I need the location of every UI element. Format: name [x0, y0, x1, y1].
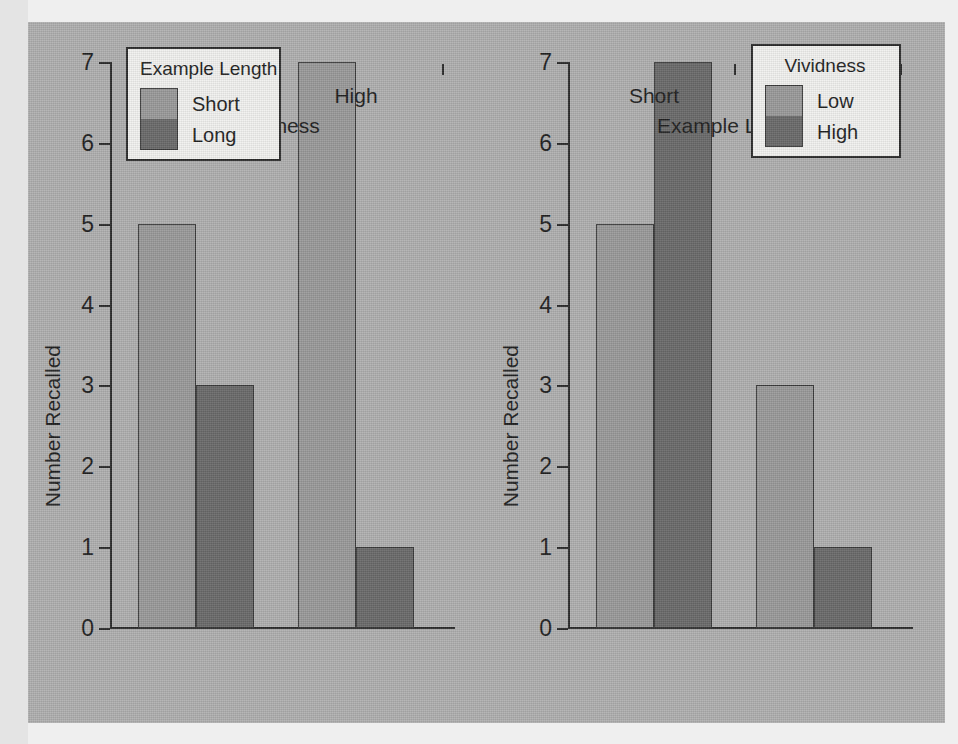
y-axis-line-left	[110, 62, 112, 628]
y-tick-3-left	[99, 385, 110, 387]
y-tick-label-3-left: 3	[81, 374, 94, 397]
legend-vividness[interactable]: Vividness Low High	[751, 44, 901, 158]
y-tick-label-0-right: 0	[539, 617, 552, 640]
y-tick-3-right	[557, 385, 568, 387]
y-tick-0-left	[99, 628, 110, 630]
y-tick-1-left	[99, 547, 110, 549]
y-tick-1-right	[557, 547, 568, 549]
legend-label-high: High	[817, 122, 858, 142]
legend-label-long: Long	[192, 125, 240, 145]
y-tick-5-right	[557, 224, 568, 226]
y-tick-2-left	[99, 466, 110, 468]
legend-swatch-low	[766, 86, 802, 116]
y-tick-label-6-left: 6	[81, 131, 94, 154]
bar-long-high[interactable]	[814, 547, 872, 628]
y-tick-6-right	[557, 143, 568, 145]
bar-short-high[interactable]	[654, 62, 712, 628]
legend-swatch-short	[141, 89, 177, 119]
x-tick-start-right	[568, 64, 570, 75]
x-category-short: Short	[629, 84, 679, 108]
y-tick-7-left	[99, 62, 110, 64]
legend-label-short: Short	[192, 94, 240, 114]
y-tick-label-1-right: 1	[539, 536, 552, 559]
y-axis-line-right	[568, 62, 570, 628]
y-tick-4-left	[99, 305, 110, 307]
bar-low-long[interactable]	[196, 385, 254, 628]
scanned-page: Number Recalled 7 6 5 4 3 2 1	[0, 0, 958, 744]
y-axis-title-left: Number Recalled	[41, 345, 65, 507]
y-tick-label-0-left: 0	[81, 617, 94, 640]
y-tick-5-left	[99, 224, 110, 226]
y-tick-label-4-right: 4	[539, 293, 552, 316]
y-tick-label-2-left: 2	[81, 455, 94, 478]
y-tick-label-6-right: 6	[539, 131, 552, 154]
x-tick-start-left	[110, 64, 112, 75]
legend-example-length[interactable]: Example Length Short Long	[126, 47, 281, 161]
y-tick-0-right	[557, 628, 568, 630]
y-axis-title-right: Number Recalled	[499, 345, 523, 507]
figure-panel: Number Recalled 7 6 5 4 3 2 1	[28, 22, 945, 723]
legend-label-column-left: Short Long	[192, 88, 240, 150]
y-tick-label-2-right: 2	[539, 455, 552, 478]
y-tick-2-right	[557, 466, 568, 468]
legend-title-example-length: Example Length	[140, 58, 265, 80]
y-tick-label-7-left: 7	[81, 51, 94, 74]
bar-low-short[interactable]	[138, 224, 196, 628]
bar-short-low[interactable]	[596, 224, 654, 628]
x-tick-end-left	[442, 64, 444, 75]
y-tick-label-3-right: 3	[539, 374, 552, 397]
legend-title-vividness: Vividness	[765, 55, 885, 77]
legend-swatch-high	[766, 116, 802, 146]
chart-vividness-by-example-length: Number Recalled 7 6 5 4 3 2 1	[28, 22, 486, 723]
bar-high-long[interactable]	[356, 547, 414, 628]
y-tick-7-right	[557, 62, 568, 64]
legend-label-column-right: Low High	[817, 85, 858, 147]
y-tick-label-5-left: 5	[81, 212, 94, 235]
y-tick-6-left	[99, 143, 110, 145]
y-tick-label-5-right: 5	[539, 212, 552, 235]
y-tick-label-1-left: 1	[81, 536, 94, 559]
bar-long-low[interactable]	[756, 385, 814, 628]
x-tick-mid-right	[734, 64, 736, 75]
legend-swatch-long	[141, 119, 177, 149]
bar-high-short[interactable]	[298, 62, 356, 628]
legend-swatch-column-right	[765, 85, 803, 147]
y-tick-4-right	[557, 305, 568, 307]
legend-label-low: Low	[817, 91, 858, 111]
legend-swatch-column-left	[140, 88, 178, 150]
y-tick-label-4-left: 4	[81, 293, 94, 316]
x-category-high: High	[334, 84, 377, 108]
y-tick-label-7-right: 7	[539, 51, 552, 74]
chart-example-length-by-vividness: Number Recalled 7 6 5 4 3 2 1	[486, 22, 945, 723]
